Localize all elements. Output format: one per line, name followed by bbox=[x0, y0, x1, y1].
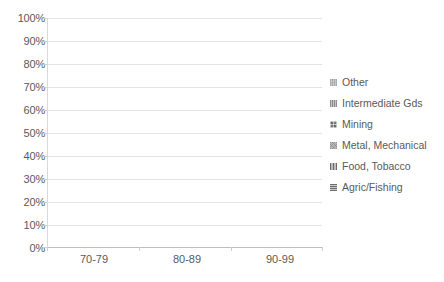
legend-label: Food, Tobacco bbox=[342, 161, 411, 172]
legend-label: Other bbox=[342, 77, 368, 88]
pattern-swatch-mining-icon bbox=[330, 121, 337, 128]
legend-item-metal-mechanical[interactable]: Metal, Mechanical bbox=[330, 135, 442, 156]
y-tick-label: 80% bbox=[4, 59, 45, 70]
y-tick-label: 100% bbox=[4, 13, 45, 24]
y-tick-label: 10% bbox=[4, 220, 45, 231]
legend-item-other[interactable]: Other bbox=[330, 72, 442, 93]
legend-item-food-tobacco[interactable]: Food, Tobacco bbox=[330, 156, 442, 177]
y-tick-label: 50% bbox=[4, 128, 45, 139]
x-tick-label: 90-99 bbox=[240, 253, 320, 265]
legend-item-agric-fishing[interactable]: Agric/Fishing bbox=[330, 177, 442, 198]
legend-item-intermediate-gds[interactable]: Intermediate Gds bbox=[330, 93, 442, 114]
pattern-swatch-metal-icon bbox=[330, 142, 337, 149]
y-tick-label: 40% bbox=[4, 151, 45, 162]
y-tick-label: 20% bbox=[4, 197, 45, 208]
x-axis-line bbox=[47, 247, 323, 248]
x-tick-label: 70-79 bbox=[54, 253, 134, 265]
legend-label: Agric/Fishing bbox=[342, 182, 403, 193]
pattern-swatch-intermediate-icon bbox=[330, 100, 337, 107]
legend: Other Intermediate Gds Mining Metal, Mec… bbox=[330, 72, 442, 198]
x-tick bbox=[47, 247, 48, 251]
legend-item-mining[interactable]: Mining bbox=[330, 114, 442, 135]
x-tick bbox=[139, 247, 140, 251]
pattern-swatch-other-icon bbox=[330, 79, 337, 86]
x-tick bbox=[231, 247, 232, 251]
y-tick-label: 0% bbox=[4, 243, 45, 254]
pattern-swatch-agric-icon bbox=[330, 184, 337, 191]
x-tick-label: 80-89 bbox=[147, 253, 227, 265]
legend-label: Metal, Mechanical bbox=[342, 140, 427, 151]
x-tick bbox=[322, 247, 323, 251]
stacked-column-chart: 100% 90% 80% 70% 60% 50% 40% 30% 20% 10%… bbox=[0, 0, 444, 282]
y-tick-label: 70% bbox=[4, 82, 45, 93]
y-axis-labels: 100% 90% 80% 70% 60% 50% 40% 30% 20% 10%… bbox=[0, 0, 45, 282]
legend-label: Mining bbox=[342, 119, 373, 130]
y-tick-label: 90% bbox=[4, 36, 45, 47]
bars-layer bbox=[47, 18, 322, 247]
pattern-swatch-food-icon bbox=[330, 163, 337, 170]
y-tick-label: 60% bbox=[4, 105, 45, 116]
y-tick-label: 30% bbox=[4, 174, 45, 185]
legend-label: Intermediate Gds bbox=[342, 98, 423, 109]
